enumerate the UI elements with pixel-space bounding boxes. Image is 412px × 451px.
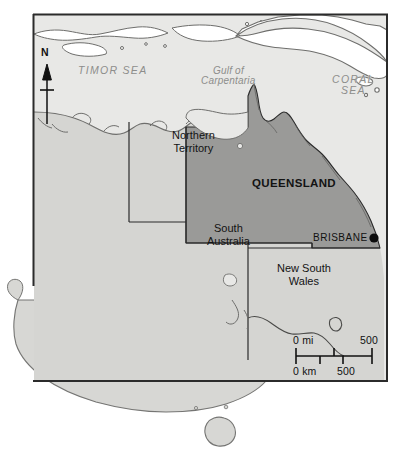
map-figure: TIMOR SEA Gulf of Carpentaria CORAL SEA …: [0, 0, 412, 451]
scale-km-zero-label: 0 km: [293, 365, 317, 377]
label-northern-territory: Northern Territory: [172, 129, 215, 156]
label-northern-territory-line1: Northern: [172, 129, 215, 142]
label-coral-sea-line2: SEA: [332, 85, 375, 96]
mornington-island: [237, 143, 242, 148]
label-south-australia-line2: Australia: [207, 235, 250, 248]
label-south-australia: South Australia: [207, 222, 250, 249]
label-new-south-wales-line2: Wales: [277, 275, 331, 288]
label-gulf-of-carpentaria: Gulf of Carpentaria: [213, 66, 255, 86]
map-canvas: [0, 0, 412, 451]
brisbane-city-dot[interactable]: [369, 233, 378, 242]
label-timor-sea: TIMOR SEA: [78, 65, 147, 76]
lake-eyre: [223, 274, 236, 286]
label-northern-territory-line2: Territory: [172, 142, 215, 155]
label-new-south-wales: New South Wales: [277, 262, 331, 289]
scale-miles-max-label: 500: [360, 334, 378, 346]
label-new-south-wales-line1: New South: [277, 262, 331, 275]
label-queensland: QUEENSLAND: [252, 176, 336, 190]
scale-miles-zero-label: 0 mi: [293, 334, 314, 346]
label-coral-sea: CORAL SEA: [332, 74, 375, 95]
north-arrow-letter: N: [41, 46, 49, 58]
label-south-australia-line1: South: [207, 222, 250, 235]
label-gulf-of-carpentaria-line2: Carpentaria: [201, 76, 255, 86]
scale-km-max-label: 500: [337, 365, 355, 377]
label-brisbane: BRISBANE: [313, 232, 368, 243]
